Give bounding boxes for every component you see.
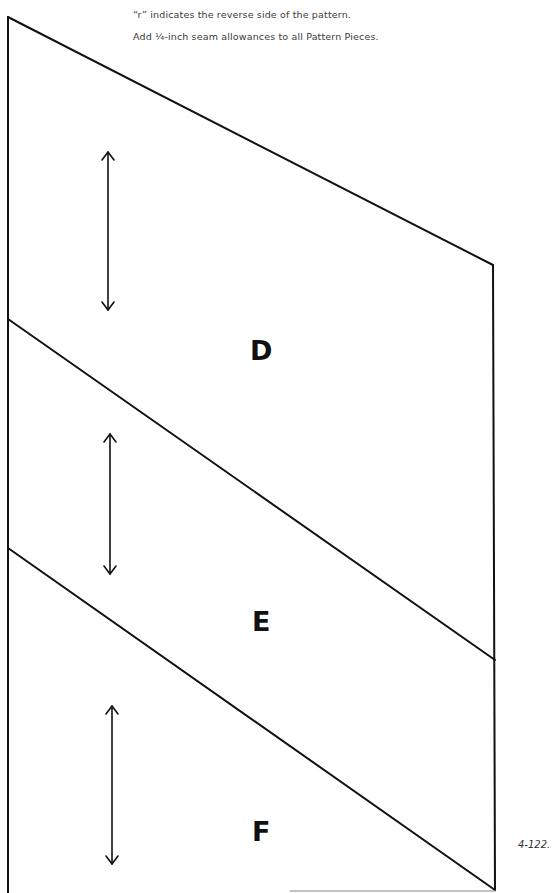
right-edge-line [493, 265, 495, 890]
figure-number-label: 4-122. [518, 839, 550, 850]
grainline-arrow-e-icon [104, 434, 116, 574]
pattern-piece-label-f: F [252, 818, 270, 845]
pattern-diagram [0, 0, 556, 893]
top-edge-line [8, 17, 493, 265]
grainline-arrow-d-icon [102, 152, 114, 310]
grainline-arrow-f-icon [106, 706, 118, 864]
pattern-piece-label-e: E [252, 608, 270, 635]
pattern-piece-label-d: D [250, 337, 272, 364]
